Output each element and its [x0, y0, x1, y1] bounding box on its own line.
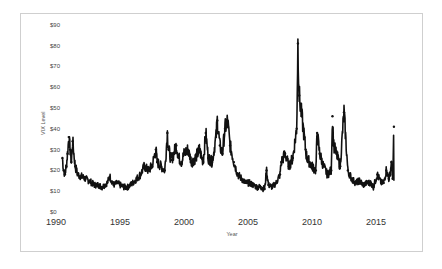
- vix-line-plot: [0, 0, 442, 269]
